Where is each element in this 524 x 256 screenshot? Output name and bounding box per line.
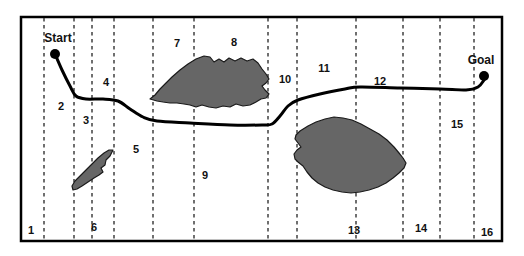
zone-label-6: 6 (91, 222, 97, 233)
zone-label-16: 16 (481, 227, 493, 238)
goal-label: Goal (468, 54, 495, 66)
zone-label-5: 5 (133, 144, 139, 155)
zone-label-3: 3 (83, 115, 89, 126)
zone-label-15: 15 (451, 119, 463, 130)
zone-label-4: 4 (103, 77, 109, 88)
start-point-marker (50, 49, 60, 59)
zone-label-11: 11 (318, 63, 330, 74)
goal-point-marker (479, 71, 489, 81)
zone-label-1: 1 (28, 225, 34, 236)
zone-label-8: 8 (231, 37, 237, 48)
zone-label-10: 10 (279, 74, 291, 85)
zone-label-14: 14 (415, 223, 427, 234)
path-planning-figure: Start Goal 12345678910111213141516 (0, 0, 524, 256)
zone-label-7: 7 (174, 38, 180, 49)
start-label: Start (44, 32, 71, 44)
zone-label-13: 13 (348, 225, 360, 236)
zone-label-2: 2 (58, 101, 64, 112)
map-border (21, 17, 502, 241)
zone-label-9: 9 (202, 170, 208, 181)
zone-label-12: 12 (374, 76, 386, 87)
map-canvas (0, 0, 524, 256)
